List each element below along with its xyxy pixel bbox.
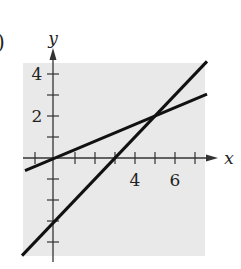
y-axis-label: y [47,28,58,48]
x-axis-label: x [224,148,234,168]
x-tick-label-4: 4 [130,170,141,190]
y-tick-label-4: 4 [32,64,43,84]
y-tick-label-2: 2 [32,106,43,126]
line-chart: 4642xy [0,0,241,269]
x-tick-label-6: 6 [170,170,181,190]
y-axis-arrow-icon [50,48,57,60]
x-axis-arrow-icon [206,155,218,162]
